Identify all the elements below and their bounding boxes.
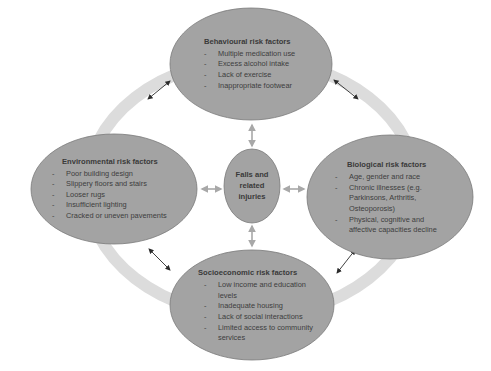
list-item: Slippery floors and stairs (52, 179, 167, 190)
arrow-environmental-socioeconomic (149, 249, 170, 270)
node-socioeconomic: Socioeconomic risk factors Low income an… (198, 264, 318, 348)
list-item: Insufficient lighting (52, 200, 167, 211)
factor-list: Low income and education levels Inadequa… (204, 280, 316, 344)
center-label-line: Falls and (224, 169, 280, 180)
list-item: Multiple medication use (204, 49, 295, 60)
list-item: Cracked or uneven pavements (52, 211, 167, 222)
list-item: Chronic illnesses (e.g. Parkinsons, Arth… (335, 183, 447, 215)
node-behavioural: Behavioural risk factors Multiple medica… (204, 33, 314, 95)
list-item: Low income and education levels (204, 280, 316, 301)
node-title: Biological risk factors (347, 160, 426, 169)
factor-list: Age, gender and race Chronic illnesses (… (335, 172, 447, 236)
list-item: Age, gender and race (335, 172, 447, 183)
list-item: Excess alcohol intake (204, 59, 295, 70)
list-item: Looser rugs (52, 190, 167, 201)
list-item: Physical, cognitive and affective capaci… (335, 215, 447, 236)
list-item: Lack of social interactions (204, 312, 316, 323)
center-label-line: related (224, 180, 280, 191)
list-item: Inappropriate footwear (204, 81, 295, 92)
node-biological: Biological risk factors Age, gender and … (335, 152, 447, 244)
factor-list: Multiple medication use Excess alcohol i… (204, 49, 295, 91)
list-item: Limited access to community services (204, 323, 316, 344)
list-item: Inadequate housing (204, 301, 316, 312)
node-environmental: Environmental risk factors Poor building… (52, 153, 192, 225)
center-label: Falls and related injuries (224, 169, 280, 202)
arrow-biological-socioeconomic (337, 250, 355, 273)
list-item: Lack of exercise (204, 70, 295, 81)
center-label-line: injuries (224, 191, 280, 202)
factor-list: Poor building design Slippery floors and… (52, 169, 167, 222)
node-title: Behavioural risk factors (204, 37, 291, 46)
node-title: Environmental risk factors (62, 157, 158, 166)
list-item: Poor building design (52, 169, 167, 180)
node-title: Socioeconomic risk factors (198, 268, 297, 277)
